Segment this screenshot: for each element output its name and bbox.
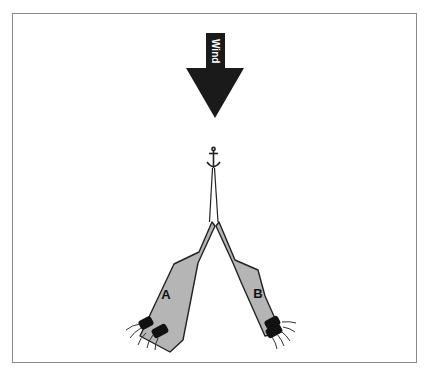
boat-b: B <box>216 222 296 349</box>
anchor-ropes <box>210 168 219 222</box>
wind-label: Wind <box>210 39 221 63</box>
boat-a: A <box>126 222 215 352</box>
anchored-boats-diagram: Wind A <box>0 0 430 379</box>
boat-b-label: B <box>253 286 262 301</box>
wind-arrow: Wind <box>186 33 244 118</box>
boat-a-label: A <box>161 287 171 302</box>
anchor-icon <box>207 147 220 168</box>
